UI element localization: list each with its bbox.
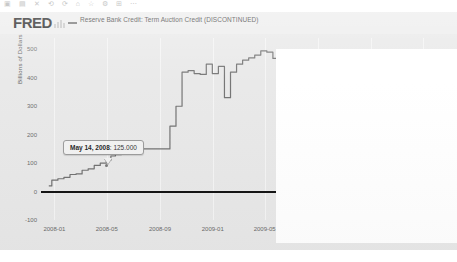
x-tick-label: 2008-09 — [149, 226, 171, 232]
x-tick-label: 2009-05 — [254, 226, 276, 232]
y-tick-label: -100 — [25, 217, 37, 223]
legend-color-swatch — [68, 22, 77, 24]
page-bottom-margin — [0, 250, 457, 262]
fred-graph-card: FRED Reserve Bank Credit: Term Auction C… — [0, 12, 457, 250]
tooltip-date: May 14, 2008 — [70, 144, 110, 151]
data-point-tooltip: May 14, 2008: 125.000 — [63, 140, 144, 155]
fred-chart-screenshot: ▣ ▤ ✕ ⟲ ⟳ ⌂ ☆ ⚙ ⊞ ⋯ FRED Reserve Bank Cr… — [0, 0, 457, 262]
white-occlusion-overlay — [276, 49, 457, 243]
y-tick-label: 300 — [27, 103, 37, 109]
y-tick-label: 0 — [34, 189, 37, 195]
x-tick-label: 2008-01 — [43, 226, 65, 232]
browser-toolbar-strip: ▣ ▤ ✕ ⟲ ⟳ ⌂ ☆ ⚙ ⊞ ⋯ — [0, 0, 457, 12]
y-tick-label: 200 — [27, 132, 37, 138]
y-tick-label: 400 — [27, 75, 37, 81]
x-tick-label: 2008-05 — [96, 226, 118, 232]
chart-header: FRED Reserve Bank Credit: Term Auction C… — [0, 12, 457, 34]
fred-chart-mark-icon — [54, 19, 65, 28]
x-tick-label: 2009-01 — [202, 226, 224, 232]
toolbar-icons: ▣ ▤ ✕ ⟲ ⟳ ⌂ ☆ ⚙ ⊞ ⋯ — [4, 0, 140, 8]
legend-series-label: Reserve Bank Credit: Term Auction Credit… — [80, 16, 259, 23]
tooltip-anchor-dot — [105, 164, 108, 167]
y-tick-label: 100 — [27, 160, 37, 166]
tooltip-value: 125.000 — [113, 144, 137, 151]
y-axis-title: Billions of Dollars — [17, 0, 23, 84]
y-tick-label: 500 — [27, 46, 37, 52]
